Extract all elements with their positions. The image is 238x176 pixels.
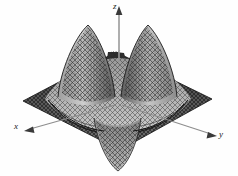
axis-label-y: y — [219, 130, 223, 139]
peak-back-right — [118, 22, 182, 108]
surface-plot-canvas — [0, 0, 238, 176]
surface-plot-figure: x y z — [0, 0, 238, 176]
axis-label-z: z — [113, 2, 117, 11]
axis-label-x: x — [14, 122, 18, 131]
